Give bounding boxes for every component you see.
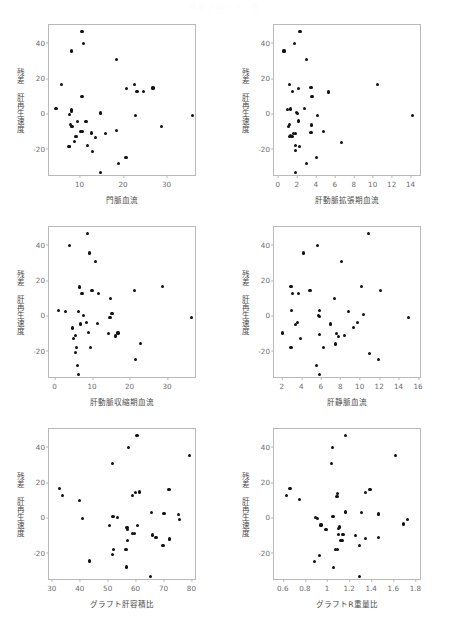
y-axis-tick: -20 [33, 548, 49, 557]
data-point [334, 342, 337, 345]
data-point [330, 462, 333, 465]
data-point [394, 454, 397, 457]
data-point [337, 527, 340, 530]
data-point [368, 352, 371, 355]
data-point [94, 260, 97, 263]
data-point [117, 162, 120, 165]
data-point [112, 548, 115, 551]
data-point [308, 289, 311, 292]
data-point [316, 517, 319, 520]
data-point [322, 346, 325, 349]
data-point [149, 575, 152, 578]
data-point [379, 289, 382, 292]
data-point [111, 515, 114, 518]
data-point [347, 310, 350, 313]
data-point [154, 536, 157, 539]
data-point [360, 511, 363, 514]
data-point [58, 487, 61, 490]
data-point [288, 487, 291, 490]
data-point [161, 544, 164, 547]
y-axis-tick: 20 [36, 276, 49, 285]
data-point [294, 132, 297, 135]
x-axis-tick: 4 [299, 377, 304, 391]
data-point [178, 518, 181, 521]
plot-area: 40200-2002468101214 [273, 24, 421, 176]
data-point [344, 434, 347, 437]
data-point [318, 554, 321, 557]
x-axis-tick: 1.8 [410, 579, 421, 593]
data-point [73, 140, 76, 143]
data-point [315, 364, 318, 367]
data-point [133, 532, 136, 535]
data-point [305, 58, 308, 61]
data-point [318, 373, 321, 376]
x-axis-tick: 0.8 [299, 579, 310, 593]
x-axis-tick: 4 [313, 175, 318, 189]
data-point [70, 125, 73, 128]
y-axis-tick: 0 [40, 109, 49, 118]
data-point [364, 537, 367, 540]
data-point [294, 149, 297, 152]
plot-area: 40200-200.60.811.21.41.61.8 [273, 428, 421, 580]
data-point [318, 315, 321, 318]
data-point [68, 244, 71, 247]
plot-area: 40200-20102030 [48, 24, 196, 176]
data-point [368, 488, 371, 491]
data-point [335, 495, 338, 498]
data-point [190, 316, 193, 319]
data-point [126, 528, 129, 531]
x-axis-label: グラフト肝容積比 [48, 598, 196, 609]
data-point [90, 131, 93, 134]
x-axis-tick: 1 [325, 579, 330, 593]
data-point [86, 232, 89, 235]
data-point [297, 119, 300, 122]
data-point [88, 559, 91, 562]
data-point [313, 560, 316, 563]
data-point [288, 83, 291, 86]
y-axis-tick: 0 [265, 311, 274, 320]
y-axis-tick: 0 [40, 311, 49, 320]
x-axis-tick: 12 [387, 175, 396, 189]
data-point [294, 323, 297, 326]
data-point [294, 171, 297, 174]
data-point [337, 533, 340, 536]
data-point [133, 83, 136, 86]
data-point [289, 346, 292, 349]
y-axis-tick: 20 [36, 478, 49, 487]
data-point [340, 539, 343, 542]
y-axis-label: 残差 肝再生速度 [239, 428, 251, 580]
data-point [191, 114, 194, 117]
x-axis-tick: 14 [406, 175, 415, 189]
data-point [167, 488, 170, 491]
data-point [406, 518, 409, 521]
data-point [136, 524, 139, 527]
data-point [125, 87, 128, 90]
x-axis-tick: 6 [318, 377, 323, 391]
data-point [332, 566, 335, 569]
data-point [82, 42, 85, 45]
data-point [91, 150, 94, 153]
data-point [322, 130, 325, 133]
x-axis-tick: 20 [118, 175, 127, 189]
data-point [285, 494, 288, 497]
data-point [291, 90, 294, 93]
x-axis-label: 門脈血流 [48, 194, 196, 205]
data-point [354, 534, 357, 537]
data-point [331, 515, 334, 518]
x-axis-tick: 70 [159, 579, 168, 593]
x-axis-tick: 60 [131, 579, 140, 593]
x-axis-label: 肝動脈収縮期血流 [48, 396, 196, 407]
y-axis-tick: -20 [33, 144, 49, 153]
data-point [115, 129, 118, 132]
data-point [290, 135, 293, 138]
data-point [68, 113, 71, 116]
y-axis-tick: 20 [261, 478, 274, 487]
figure-sheet: 残差プロット一覧 残差 肝再生速度40200-20102030門脈血流 残差 肝… [0, 0, 449, 632]
data-point [168, 537, 171, 540]
x-axis-tick: 2 [279, 377, 284, 391]
y-axis-tick: 40 [261, 240, 274, 249]
data-point [343, 334, 346, 337]
y-axis-label: 残差 肝再生速度 [239, 226, 251, 378]
plot-area: 40200-20304050607080 [48, 428, 196, 580]
data-point [319, 523, 322, 526]
